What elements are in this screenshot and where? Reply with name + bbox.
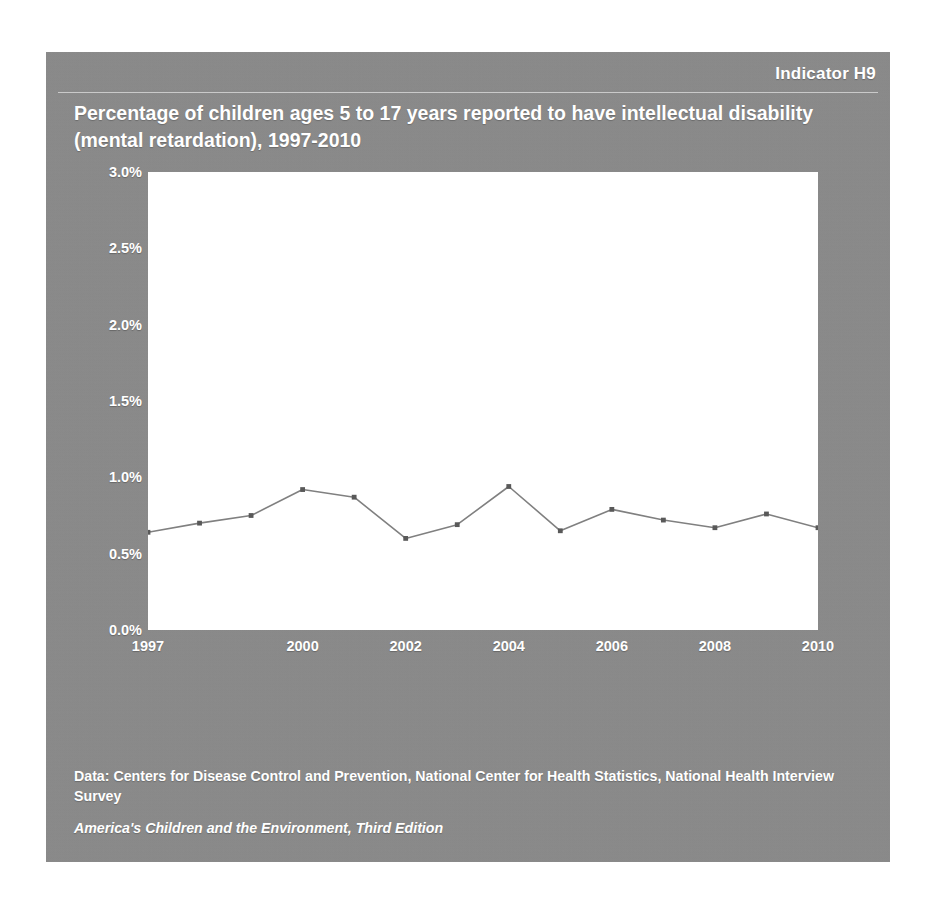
y-axis-tick-label: 1.5% [84,393,142,409]
data-point-marker [249,513,254,518]
footer: Data: Centers for Disease Control and Pr… [74,766,866,836]
y-axis-tick-label: 2.5% [84,240,142,256]
data-point-marker [764,512,769,517]
x-axis-labels: 1997200020022004200620082010 [148,638,818,668]
x-axis-tick-label: 2004 [493,638,525,654]
data-point-marker [506,484,511,489]
footer-data-source: Data: Centers for Disease Control and Pr… [74,766,866,807]
data-point-marker [661,518,666,523]
chart-title: Percentage of children ages 5 to 17 year… [74,100,850,154]
x-axis-tick-label: 2000 [286,638,318,654]
x-axis-tick-label: 2006 [596,638,628,654]
data-point-marker [816,525,818,530]
y-axis-tick-label: 0.5% [84,546,142,562]
x-axis-tick-label: 2002 [390,638,422,654]
header-divider [58,92,878,93]
footer-publication: America's Children and the Environment, … [74,820,866,836]
y-axis-tick-label: 1.0% [84,469,142,485]
data-point-marker [403,536,408,541]
data-point-marker [352,495,357,500]
figure-panel: Indicator H9 Percentage of children ages… [46,52,890,862]
data-line [148,486,818,538]
y-axis-tick-label: 0.0% [84,622,142,638]
data-point-marker [148,530,150,535]
data-point-marker [455,522,460,527]
data-point-marker [300,487,305,492]
data-point-marker [713,525,718,530]
indicator-label: Indicator H9 [775,64,876,84]
line-chart-svg [148,172,818,630]
data-point-marker [609,507,614,512]
plot-region [148,172,818,630]
y-axis-labels: 0.0%0.5%1.0%1.5%2.0%2.5%3.0% [80,172,142,630]
data-point-marker [558,528,563,533]
data-point-marker [197,521,202,526]
x-axis-tick-label: 1997 [132,638,164,654]
y-axis-tick-label: 3.0% [84,164,142,180]
y-axis-tick-label: 2.0% [84,317,142,333]
x-axis-tick-label: 2010 [802,638,834,654]
x-axis-tick-label: 2008 [699,638,731,654]
